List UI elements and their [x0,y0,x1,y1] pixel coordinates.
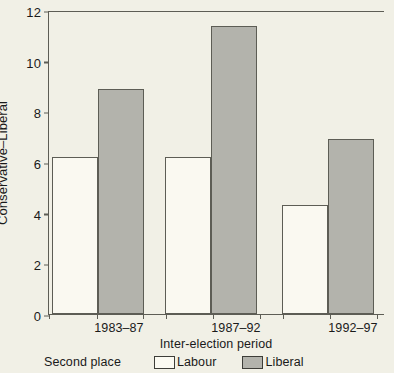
x-tick-mark-8 [377,314,378,319]
bar-1992-97-liberal [328,139,374,314]
legend-swatch-liberal-icon [242,356,263,369]
x-tick-mark-3 [166,314,167,319]
bar-1987-92-labour [165,157,211,314]
legend-swatch-labour-icon [154,356,175,369]
x-tick-mark-2 [143,314,144,319]
y-tick-10: 10 [26,56,49,69]
y-tick-label-10: 10 [26,56,44,69]
x-tick-label-1987-92: 1987–92 [211,321,260,335]
y-tick-8: 8 [34,107,49,120]
bar-1992-97-labour [282,205,328,314]
y-tick-label-6: 6 [34,158,44,171]
y-tick-label-12: 12 [26,6,44,19]
y-tick-label-8: 8 [34,107,44,120]
bar-1987-92-liberal [211,26,257,314]
bar-1983-87-labour [52,157,98,314]
x-tick-label-1983-87: 1983–87 [94,321,143,335]
legend-label-labour: Labour [177,355,217,369]
x-tick-mark-0 [49,314,50,319]
x-tick-mark-7 [330,314,331,319]
legend-title: Second place [44,355,121,369]
plot-area: 0 2 4 6 8 10 12 [48,11,384,315]
legend-label-liberal: Liberal [265,355,303,369]
y-tick-12: 12 [26,6,49,19]
legend-item-liberal: Liberal [242,355,303,369]
x-axis-title: Inter-election period [160,337,273,351]
x-tick-mark-4 [213,314,214,319]
y-tick-6: 6 [34,158,49,171]
bar-1983-87-liberal [98,89,144,314]
y-tick-label-2: 2 [34,259,44,272]
x-tick-label-1992-97: 1992–97 [328,321,377,335]
y-tick-0: 0 [34,310,49,323]
y-axis-title: Conservative–Liberal [0,101,10,225]
y-tick-label-0: 0 [34,310,44,323]
y-tick-4: 4 [34,208,49,221]
y-tick-2: 2 [34,259,49,272]
chart-legend: Second place Labour Liberal [44,355,330,369]
legend-item-labour: Labour [154,355,217,369]
bars-layer [49,12,384,314]
y-tick-label-4: 4 [34,208,44,221]
x-tick-mark-1 [97,314,98,319]
x-tick-mark-6 [283,314,284,319]
bar-chart: Conservative–Liberal 0 2 4 6 8 10 12 [0,0,394,373]
x-tick-mark-5 [260,314,261,319]
